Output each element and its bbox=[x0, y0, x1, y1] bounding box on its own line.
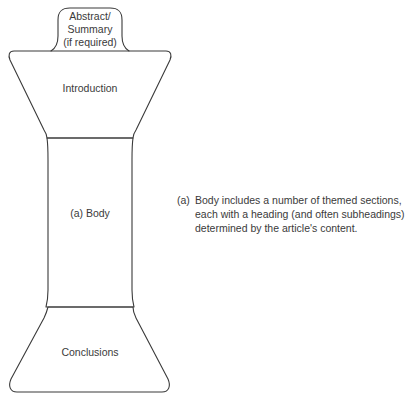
annotation-text: Body includes a number of themed section… bbox=[195, 193, 409, 235]
abstract-line-3: (if required) bbox=[50, 36, 130, 49]
annotation-line-2: each with a heading (and often subheadin… bbox=[195, 207, 409, 221]
annotation-line-1: Body includes a number of themed section… bbox=[195, 193, 409, 207]
body-label: (a) Body bbox=[40, 207, 140, 220]
conclusions-label: Conclusions bbox=[40, 346, 140, 359]
body-shape bbox=[46, 138, 134, 307]
abstract-label: Abstract/ Summary (if required) bbox=[50, 10, 130, 49]
abstract-line-2: Summary bbox=[50, 23, 130, 36]
annotation-marker: (a) bbox=[177, 193, 190, 207]
abstract-line-1: Abstract/ bbox=[50, 10, 130, 23]
introduction-label: Introduction bbox=[40, 82, 140, 95]
annotation-line-3: determined by the article's content. bbox=[195, 221, 409, 235]
